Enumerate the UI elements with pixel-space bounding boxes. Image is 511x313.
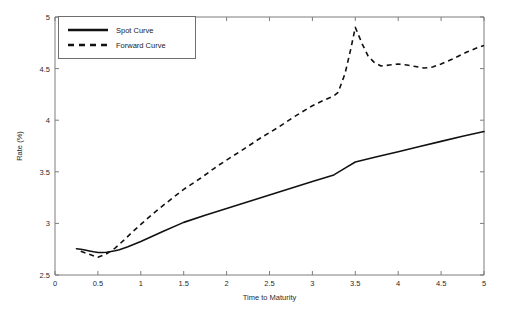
chart-legend[interactable]: Spot Curve Forward Curve xyxy=(59,17,196,59)
legend-label-forward-curve: Forward Curve xyxy=(116,41,166,50)
y-tick-label: 4 xyxy=(46,116,50,125)
x-tick-label: 4.5 xyxy=(436,279,446,288)
x-axis-title: Time to Maturity xyxy=(243,293,297,302)
x-tick-label: 4 xyxy=(396,279,400,288)
y-tick-label: 5 xyxy=(46,13,50,22)
y-axis-title: Rate (%) xyxy=(15,131,24,161)
x-tick-label: 1.5 xyxy=(178,279,188,288)
figure-canvas: 00.511.522.533.544.55 2.533.544.55 Time … xyxy=(0,0,511,313)
y-tick-label: 4.5 xyxy=(40,65,50,74)
y-tick-label: 3 xyxy=(46,219,50,228)
x-tick-label: 2 xyxy=(225,279,229,288)
legend-box xyxy=(59,17,196,59)
x-tick-label: 2.5 xyxy=(264,279,274,288)
x-tick-label: 0.5 xyxy=(93,279,103,288)
x-tick-label: 3 xyxy=(310,279,314,288)
y-tick-label: 2.5 xyxy=(40,271,50,280)
x-tick-label: 3.5 xyxy=(350,279,360,288)
x-tick-label: 5 xyxy=(482,279,486,288)
y-tick-label: 3.5 xyxy=(40,168,50,177)
rate-curve-chart: 00.511.522.533.544.55 2.533.544.55 Time … xyxy=(0,0,511,313)
legend-label-spot-curve: Spot Curve xyxy=(116,26,154,35)
x-tick-label: 0 xyxy=(53,279,57,288)
x-tick-label: 1 xyxy=(139,279,143,288)
